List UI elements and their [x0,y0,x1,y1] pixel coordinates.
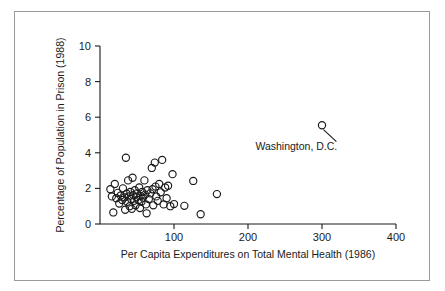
x-tick-label: 300 [313,231,331,243]
data-point [110,209,117,216]
scatter-plot: 100200300400 0246810 Washington, D.C. Pe… [0,0,445,291]
data-point [213,190,220,197]
y-tick-label: 8 [85,76,91,88]
figure-container: 100200300400 0246810 Washington, D.C. Pe… [0,0,445,291]
tick-marks [95,46,396,229]
data-point [190,177,197,184]
x-tick-labels: 100200300400 [165,231,405,243]
data-point [318,122,325,129]
data-point [159,156,166,163]
y-tick-labels: 0246810 [79,40,91,230]
data-point [157,189,164,196]
data-point [122,154,129,161]
y-tick-label: 4 [85,147,91,159]
y-tick-label: 0 [85,218,91,230]
annotation-label: Washington, D.C. [255,140,337,152]
x-tick-label: 100 [165,231,183,243]
data-point [143,210,150,217]
data-points [107,122,326,218]
data-point [197,211,204,218]
x-tick-label: 200 [239,231,257,243]
data-point [163,195,170,202]
x-tick-label: 400 [387,231,405,243]
y-tick-label: 6 [85,111,91,123]
data-point [153,193,160,200]
y-tick-label: 2 [85,182,91,194]
y-tick-label: 10 [79,40,91,52]
annotations: Washington, D.C. [255,130,337,152]
data-point [169,171,176,178]
x-axis-title: Per Capita Expenditures on Total Mental … [121,248,375,260]
data-point [150,202,157,209]
data-point [141,177,148,184]
data-point [111,180,118,187]
y-axis-title: Percentage of Population in Prison (1988… [54,38,66,233]
data-point [181,202,188,209]
